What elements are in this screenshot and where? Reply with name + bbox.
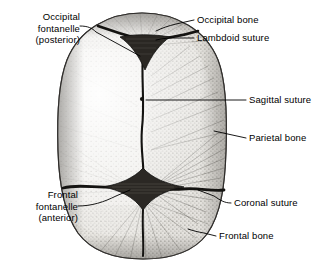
label-parietal-bone: Parietal bone [249,132,306,144]
label-line: (anterior) [4,212,78,224]
frontal-metopic-suture [143,210,144,256]
label-line: Frontal bone [219,230,274,242]
label-line: Lambdoid suture [197,32,269,44]
label-line: Occipital bone [197,14,259,26]
sagittal-suture-node [140,97,144,101]
label-coronal-suture: Coronal suture [234,197,298,209]
label-lambdoid-suture: Lambdoid suture [197,32,269,44]
label-line: Frontal [4,189,78,201]
label-sagittal-suture: Sagittal suture [249,94,311,106]
label-line: Coronal suture [234,197,298,209]
label-occipital-fontanelle: Occipital fontanelle (posterior) [8,11,80,46]
label-line: Occipital [8,11,80,23]
label-line: fontanelle [8,23,80,35]
label-occipital-bone: Occipital bone [197,14,259,26]
label-line: fontanelle [4,201,78,213]
label-line: Sagittal suture [249,94,311,106]
label-line: Parietal bone [249,132,306,144]
label-line: (posterior) [8,34,80,46]
label-frontal-fontanelle: Frontal fontanelle (anterior) [4,189,78,224]
label-frontal-bone: Frontal bone [219,230,274,242]
neonatal-skull-diagram: Occipital fontanelle (posterior) Occipit… [0,0,332,266]
